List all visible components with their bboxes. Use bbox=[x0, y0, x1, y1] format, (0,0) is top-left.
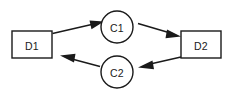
node-d2-label: D2 bbox=[194, 40, 208, 52]
node-d1-label: D1 bbox=[25, 40, 39, 52]
diagram-svg: D1 C1 D2 C2 bbox=[0, 0, 233, 92]
edge-d2-to-c2-arrowhead bbox=[138, 61, 154, 70]
node-c1-label: C1 bbox=[110, 22, 124, 34]
edge-d1-to-c1-line bbox=[53, 24, 97, 34]
node-c2-label: C2 bbox=[110, 67, 124, 79]
edge-c1-to-d2-arrowhead bbox=[166, 30, 182, 39]
edge-c2-to-d1-arrowhead bbox=[60, 54, 76, 63]
diagram-canvas: D1 C1 D2 C2 bbox=[0, 0, 233, 92]
edge-c2-to-d1-line bbox=[70, 59, 100, 67]
node-d1[interactable]: D1 bbox=[12, 31, 52, 58]
node-c1[interactable]: C1 bbox=[101, 11, 133, 43]
edge-c2-to-d1 bbox=[60, 54, 100, 67]
edge-d1-to-c1 bbox=[53, 21, 105, 34]
node-c2[interactable]: C2 bbox=[101, 56, 133, 88]
node-d2[interactable]: D2 bbox=[181, 31, 221, 58]
edge-d2-to-c2 bbox=[138, 57, 181, 69]
edge-c1-to-d2 bbox=[138, 24, 181, 39]
